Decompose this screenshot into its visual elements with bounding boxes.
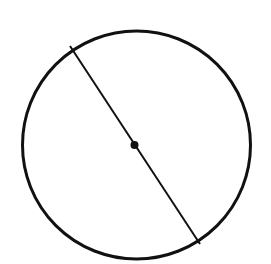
center-point xyxy=(131,141,139,149)
circle-diagram xyxy=(0,0,271,264)
